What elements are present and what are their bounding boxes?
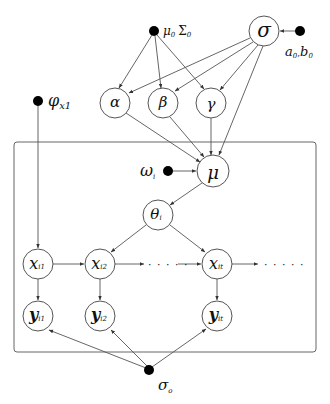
a0-b0-label: a0,b0: [285, 44, 313, 60]
omega-i-label: ωi: [140, 161, 155, 181]
edge-mu0-alpha: [119, 35, 152, 88]
edge-sigmao-y2: [111, 330, 147, 366]
svg-text:σ: σ: [257, 18, 272, 42]
edge-sigmao-y1: [49, 330, 146, 368]
node-alpha: α: [100, 88, 130, 118]
node-sigma: σ: [249, 16, 279, 46]
phi-x1-dot: [33, 96, 43, 106]
phi-x1-label: φx1: [48, 91, 71, 111]
node-gamma: γ: [196, 88, 226, 118]
node-x-i2: xi2: [85, 249, 115, 279]
edges: [38, 31, 296, 368]
node-y-i1: yi1: [23, 301, 53, 331]
node-x-i1: xi1: [23, 249, 53, 279]
mu0-sigma0-label: μ0Σ0: [163, 24, 192, 39]
node-y-i2: yi2: [85, 301, 115, 331]
edge-theta-xt: [170, 225, 205, 252]
edge-sigma-gamma: [220, 45, 258, 90]
edge-sigma-alpha: [129, 38, 250, 93]
omega-i-dot: [163, 166, 173, 176]
node-beta: β: [148, 88, 178, 118]
edge-alpha-mu: [126, 113, 200, 162]
sigma-o-dot: [144, 365, 154, 375]
svg-text:α: α: [110, 93, 120, 111]
sigma-o-label: σo: [158, 376, 172, 395]
edge-mu-theta: [170, 183, 202, 205]
svg-text:β: β: [158, 93, 168, 111]
node-theta-i: θi: [143, 200, 173, 230]
edge-sigmao-yt: [152, 329, 206, 367]
node-x-it: xit: [202, 249, 232, 279]
svg-text:μ: μ: [207, 162, 219, 183]
a0-b0-dot: [295, 26, 305, 36]
graphical-model-diagram: · · · · · · · · · · μ0Σ0 a0,b0 φx1 ωi σo…: [0, 0, 330, 404]
edge-beta-mu: [170, 117, 204, 157]
svg-text:γ: γ: [207, 95, 216, 113]
ellipsis-middle: · · · · ·: [148, 258, 188, 271]
node-mu: μ: [197, 155, 229, 187]
node-y-it: yit: [202, 301, 232, 331]
edge-theta-x2: [111, 225, 146, 252]
ellipsis-end: · · · · ·: [264, 258, 304, 271]
mu0-sigma0-dot: [149, 26, 159, 36]
